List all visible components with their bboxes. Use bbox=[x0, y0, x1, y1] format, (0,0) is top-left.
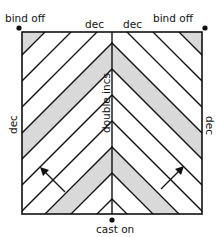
top-right-label: bind off bbox=[153, 12, 194, 24]
top-center-right-label: dec bbox=[123, 18, 142, 30]
top-center-left-label: dec bbox=[85, 18, 104, 30]
top-left-label: bind off bbox=[5, 12, 46, 24]
right-arrow-icon bbox=[161, 166, 184, 189]
chevron-knitting-diagram: bind off bind off dec dec dec dec double… bbox=[0, 0, 217, 237]
bottom-label: cast on bbox=[96, 223, 134, 235]
left-side-label: dec bbox=[7, 115, 19, 134]
bottom-center-dot-icon bbox=[109, 217, 114, 222]
top-right-dot-icon bbox=[202, 25, 207, 30]
top-left-dot-icon bbox=[16, 25, 21, 30]
right-side-label: dec bbox=[204, 116, 216, 135]
left-arrow-icon bbox=[40, 167, 65, 192]
center-label: double incs bbox=[100, 73, 112, 133]
